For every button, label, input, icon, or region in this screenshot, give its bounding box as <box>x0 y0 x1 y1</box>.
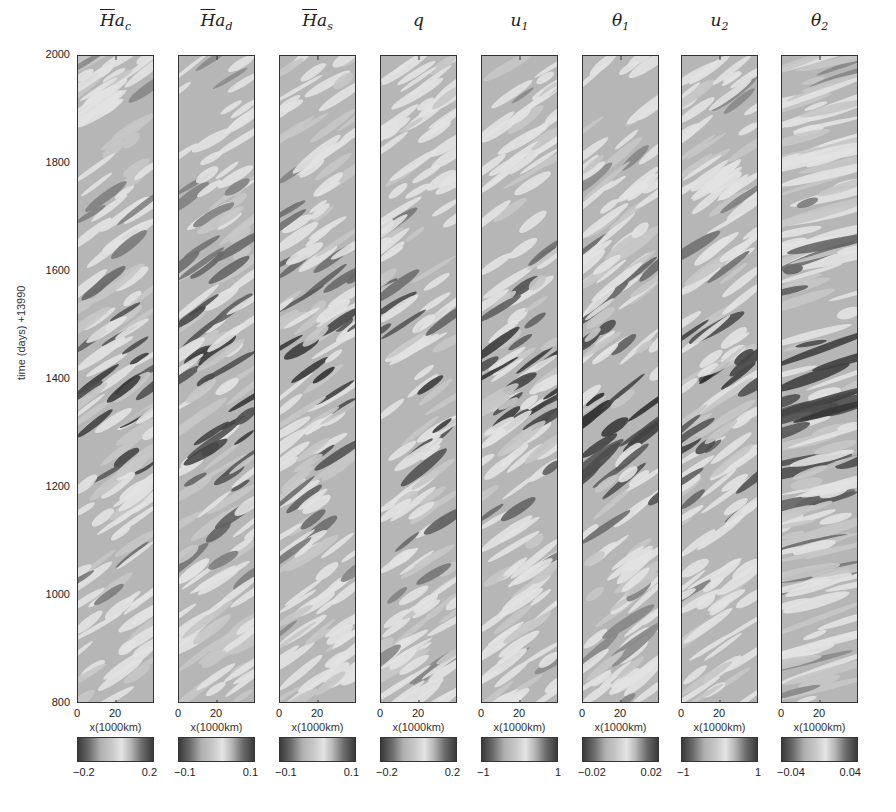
x-tick-label: 0 <box>678 707 684 719</box>
panel-title-q: q <box>380 10 457 30</box>
x-axis-label: x(1000km) <box>77 721 154 733</box>
x-tick-label: 0 <box>276 707 282 719</box>
x-tick-label: 20 <box>311 707 323 719</box>
x-tick-label: 20 <box>210 707 222 719</box>
y-tick-label: 800 <box>36 696 70 708</box>
x-axis-label: x(1000km) <box>380 721 457 733</box>
x-tick-label: 20 <box>614 707 626 719</box>
hovmoller-panel-ha-c <box>77 55 154 703</box>
x-tick-label: 0 <box>377 707 383 719</box>
colorbar-max-label: 1 <box>555 766 561 778</box>
colorbar-min-label: −1 <box>477 766 490 778</box>
x-tick-label: 0 <box>74 707 80 719</box>
x-axis-label: x(1000km) <box>781 721 858 733</box>
colorbar <box>481 737 558 762</box>
x-tick-label: 20 <box>109 707 121 719</box>
colorbar-max-label: 0.2 <box>142 766 157 778</box>
panel-title-u-2: u2 <box>681 10 758 33</box>
y-tick-label: 1800 <box>36 156 70 168</box>
x-tick-label: 20 <box>813 707 825 719</box>
x-tick-label: 0 <box>478 707 484 719</box>
x-axis-label: x(1000km) <box>279 721 356 733</box>
colorbar-min-label: −0.1 <box>174 766 196 778</box>
hovmoller-panel-u-1 <box>481 55 558 703</box>
x-tick-label: 0 <box>175 707 181 719</box>
hovmoller-panel-theta-1 <box>582 55 659 703</box>
colorbar-min-label: −0.2 <box>376 766 398 778</box>
panel-title-ha-c: Hac <box>77 10 154 33</box>
colorbar-min-label: −0.04 <box>777 766 805 778</box>
colorbar-min-label: −1 <box>677 766 690 778</box>
colorbar <box>582 737 659 762</box>
hovmoller-panel-q <box>380 55 457 703</box>
colorbar <box>178 737 255 762</box>
x-tick-label: 20 <box>412 707 424 719</box>
colorbar <box>77 737 154 762</box>
x-tick-label: 20 <box>713 707 725 719</box>
colorbar-max-label: 0.02 <box>641 766 662 778</box>
colorbar-max-label: 0.2 <box>445 766 460 778</box>
colorbar <box>380 737 457 762</box>
colorbar <box>279 737 356 762</box>
hovmoller-panel-ha-d <box>178 55 255 703</box>
colorbar-min-label: −0.1 <box>275 766 297 778</box>
hovmoller-panel-theta-2 <box>781 55 858 703</box>
y-axis-label: time (days) +13990 <box>15 286 27 380</box>
colorbar <box>681 737 758 762</box>
x-axis-label: x(1000km) <box>582 721 659 733</box>
y-tick-label: 1600 <box>36 264 70 276</box>
colorbar-max-label: 1 <box>755 766 761 778</box>
colorbar-min-label: −0.2 <box>73 766 95 778</box>
colorbar <box>781 737 858 762</box>
y-tick-label: 1400 <box>36 372 70 384</box>
x-tick-label: 0 <box>778 707 784 719</box>
x-axis-label: x(1000km) <box>681 721 758 733</box>
x-tick-label: 20 <box>513 707 525 719</box>
hovmoller-panel-u-2 <box>681 55 758 703</box>
y-tick-label: 1000 <box>36 588 70 600</box>
hovmoller-panel-ha-s <box>279 55 356 703</box>
colorbar-max-label: 0.04 <box>840 766 861 778</box>
y-tick-label: 1200 <box>36 480 70 492</box>
x-axis-label: x(1000km) <box>178 721 255 733</box>
colorbar-min-label: −0.02 <box>578 766 606 778</box>
panel-title-ha-d: Had <box>178 10 255 33</box>
panel-title-ha-s: Has <box>279 10 356 33</box>
panel-title-theta-1: θ1 <box>582 10 659 33</box>
panel-title-theta-2: θ2 <box>781 10 858 33</box>
colorbar-max-label: 0.1 <box>344 766 359 778</box>
panel-title-u-1: u1 <box>481 10 558 33</box>
x-tick-label: 0 <box>579 707 585 719</box>
colorbar-max-label: 0.1 <box>243 766 258 778</box>
y-tick-label: 2000 <box>36 48 70 60</box>
x-axis-label: x(1000km) <box>481 721 558 733</box>
